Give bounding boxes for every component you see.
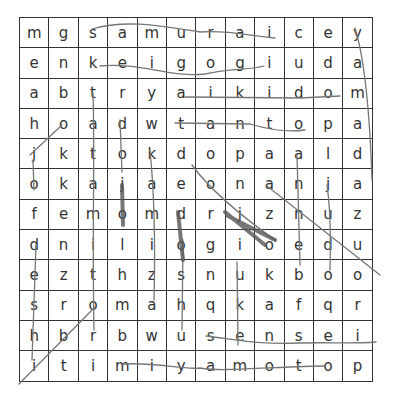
grid-cell[interactable]: d	[167, 139, 196, 169]
grid-cell[interactable]: o	[343, 260, 372, 290]
grid-cell[interactable]: w	[138, 109, 167, 139]
grid-cell[interactable]: r	[196, 200, 225, 230]
grid-cell[interactable]: t	[79, 260, 108, 290]
grid-cell[interactable]: o	[196, 169, 225, 199]
grid-cell[interactable]: n	[226, 109, 255, 139]
grid-cell[interactable]: i	[138, 48, 167, 78]
grid-cell[interactable]: o	[314, 79, 343, 109]
grid-cell[interactable]: j	[226, 200, 255, 230]
grid-cell[interactable]: c	[285, 18, 314, 48]
grid-cell[interactable]: z	[343, 200, 372, 230]
grid-cell[interactable]: o	[285, 109, 314, 139]
grid-cell[interactable]: s	[167, 260, 196, 290]
grid-cell[interactable]: k	[49, 139, 78, 169]
grid-cell[interactable]: i	[255, 18, 284, 48]
grid-cell[interactable]: t	[49, 351, 78, 381]
grid-cell[interactable]: i	[138, 230, 167, 260]
grid-cell[interactable]: s	[285, 321, 314, 351]
grid-cell[interactable]: m	[108, 351, 137, 381]
grid-cell[interactable]: i	[343, 321, 372, 351]
grid-cell[interactable]: n	[49, 230, 78, 260]
grid-cell[interactable]: j	[20, 139, 49, 169]
grid-cell[interactable]: a	[138, 169, 167, 199]
grid-cell[interactable]: a	[285, 139, 314, 169]
grid-cell[interactable]: m	[138, 18, 167, 48]
grid-cell[interactable]: r	[108, 79, 137, 109]
grid-cell[interactable]: a	[226, 18, 255, 48]
grid-cell[interactable]: e	[314, 18, 343, 48]
grid-cell[interactable]: i	[196, 79, 225, 109]
grid-cell[interactable]: o	[255, 230, 284, 260]
grid-cell[interactable]: a	[255, 139, 284, 169]
grid-cell[interactable]: u	[167, 18, 196, 48]
grid-cell[interactable]: a	[255, 291, 284, 321]
grid-cell[interactable]: b	[49, 321, 78, 351]
grid-cell[interactable]: m	[108, 291, 137, 321]
grid-cell[interactable]: d	[285, 79, 314, 109]
grid-cell[interactable]: m	[20, 18, 49, 48]
grid-cell[interactable]: o	[79, 291, 108, 321]
grid-cell[interactable]: n	[285, 200, 314, 230]
grid-cell[interactable]: l	[108, 230, 137, 260]
grid-cell[interactable]: h	[20, 109, 49, 139]
grid-cell[interactable]: f	[285, 291, 314, 321]
grid-cell[interactable]: h	[167, 291, 196, 321]
grid-cell[interactable]: a	[196, 351, 225, 381]
grid-cell[interactable]: o	[20, 169, 49, 199]
grid-cell[interactable]: m	[343, 79, 372, 109]
grid-cell[interactable]: d	[314, 48, 343, 78]
grid-cell[interactable]: i	[79, 230, 108, 260]
grid-cell[interactable]: u	[343, 230, 372, 260]
grid-cell[interactable]: e	[20, 260, 49, 290]
grid-cell[interactable]: n	[285, 169, 314, 199]
grid-cell[interactable]: g	[167, 48, 196, 78]
grid-cell[interactable]: s	[196, 321, 225, 351]
grid-cell[interactable]: d	[108, 109, 137, 139]
grid-cell[interactable]: a	[343, 109, 372, 139]
grid-cell[interactable]: o	[108, 139, 137, 169]
grid-cell[interactable]: k	[79, 48, 108, 78]
grid-cell[interactable]: f	[20, 200, 49, 230]
grid-cell[interactable]: o	[196, 48, 225, 78]
grid-cell[interactable]: a	[79, 169, 108, 199]
grid-cell[interactable]: a	[343, 169, 372, 199]
grid-cell[interactable]: i	[226, 230, 255, 260]
grid-cell[interactable]: d	[20, 230, 49, 260]
grid-cell[interactable]: a	[108, 18, 137, 48]
grid-cell[interactable]: m	[79, 200, 108, 230]
grid-cell[interactable]: u	[314, 200, 343, 230]
grid-cell[interactable]: i	[255, 79, 284, 109]
grid-cell[interactable]: a	[196, 109, 225, 139]
grid-cell[interactable]: o	[314, 260, 343, 290]
grid-cell[interactable]: g	[49, 18, 78, 48]
grid-cell[interactable]: u	[167, 321, 196, 351]
grid-cell[interactable]: k	[255, 260, 284, 290]
grid-cell[interactable]: y	[167, 351, 196, 381]
grid-cell[interactable]: b	[49, 79, 78, 109]
grid-cell[interactable]: u	[285, 48, 314, 78]
grid-cell[interactable]: z	[138, 260, 167, 290]
grid-cell[interactable]: a	[255, 169, 284, 199]
grid-cell[interactable]: h	[20, 321, 49, 351]
grid-cell[interactable]: i	[255, 48, 284, 78]
grid-cell[interactable]: o	[49, 109, 78, 139]
grid-cell[interactable]: o	[255, 351, 284, 381]
grid-cell[interactable]: e	[49, 200, 78, 230]
grid-cell[interactable]: a	[20, 79, 49, 109]
grid-cell[interactable]: p	[314, 109, 343, 139]
grid-cell[interactable]: t	[167, 109, 196, 139]
grid-cell[interactable]: e	[167, 169, 196, 199]
grid-cell[interactable]: h	[108, 260, 137, 290]
grid-cell[interactable]: t	[255, 109, 284, 139]
grid-cell[interactable]: p	[343, 351, 372, 381]
grid-cell[interactable]: e	[314, 321, 343, 351]
grid-cell[interactable]: z	[49, 260, 78, 290]
grid-cell[interactable]: k	[226, 291, 255, 321]
grid-cell[interactable]: n	[49, 48, 78, 78]
grid-cell[interactable]: k	[49, 169, 78, 199]
grid-cell[interactable]: i	[79, 351, 108, 381]
grid-cell[interactable]: i	[20, 351, 49, 381]
grid-cell[interactable]: d	[343, 139, 372, 169]
grid-cell[interactable]: t	[79, 79, 108, 109]
grid-cell[interactable]: q	[196, 291, 225, 321]
